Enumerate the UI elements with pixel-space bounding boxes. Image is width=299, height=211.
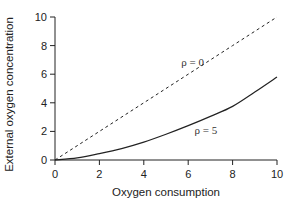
y-tick-label: 4	[41, 97, 47, 109]
y-tick-label: 0	[41, 154, 47, 166]
series-line-1	[55, 77, 277, 160]
x-tick-label: 0	[52, 168, 58, 180]
axes: 02468100246810	[35, 11, 283, 180]
y-tick-label: 2	[41, 125, 47, 137]
x-axis-label: Oxygen consumption	[112, 186, 220, 198]
y-tick-label: 6	[41, 68, 47, 80]
y-tick-label: 10	[35, 11, 47, 23]
line-chart: 02468100246810 Oxygen consumptionExterna…	[0, 0, 299, 211]
x-tick-label: 4	[141, 168, 147, 180]
series-lines	[55, 17, 277, 160]
series-line-0	[55, 17, 277, 160]
y-axis-label: External oxygen concentration	[3, 17, 15, 172]
y-tick-label: 8	[41, 40, 47, 52]
curve-label-0: ρ = 0	[181, 56, 204, 68]
x-tick-label: 2	[96, 168, 102, 180]
x-tick-label: 6	[185, 168, 191, 180]
x-tick-label: 10	[271, 168, 283, 180]
x-tick-label: 8	[230, 168, 236, 180]
curve-label-1: ρ = 5	[195, 124, 218, 136]
